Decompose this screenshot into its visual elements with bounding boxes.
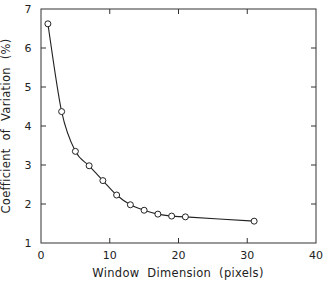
y-tick-label: 7	[25, 3, 32, 16]
axis-ticks	[41, 9, 316, 243]
data-point-marker	[59, 109, 65, 115]
data-point-marker	[182, 214, 188, 220]
data-point-marker	[141, 207, 147, 213]
y-axis-label: Coefficient of Variation (%)	[0, 38, 13, 213]
data-point-marker	[155, 211, 161, 217]
x-tick-label: 0	[38, 249, 45, 262]
plot-frame	[41, 9, 316, 243]
chart-canvas: 010203040 1234567 Window Dimension (pixe…	[0, 0, 328, 284]
y-tick-label: 5	[25, 81, 32, 94]
x-tick-labels: 010203040	[38, 249, 324, 262]
y-tick-label: 6	[25, 42, 32, 55]
data-point-marker	[251, 218, 257, 224]
x-axis-label: Window Dimension (pixels)	[92, 266, 263, 280]
x-tick-label: 30	[240, 249, 254, 262]
data-point-marker	[114, 192, 120, 198]
data-curve	[48, 24, 254, 221]
y-tick-label: 1	[25, 237, 32, 250]
plot-border	[41, 9, 316, 243]
data-point-marker	[100, 178, 106, 184]
y-tick-labels: 1234567	[25, 3, 32, 250]
y-tick-label: 2	[25, 198, 32, 211]
y-tick-label: 3	[25, 159, 32, 172]
data-point-marker	[86, 163, 92, 169]
data-point-marker	[45, 21, 51, 27]
data-point-marker	[169, 213, 175, 219]
x-tick-label: 10	[103, 249, 117, 262]
x-tick-label: 20	[172, 249, 186, 262]
data-markers	[45, 21, 257, 224]
y-tick-label: 4	[25, 120, 32, 133]
data-point-marker	[72, 148, 78, 154]
x-tick-label: 40	[309, 249, 323, 262]
data-point-marker	[127, 202, 133, 208]
